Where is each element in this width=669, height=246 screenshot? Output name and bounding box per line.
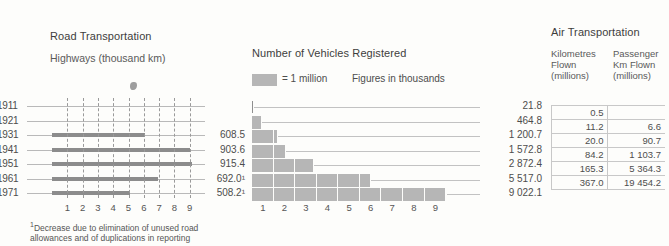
- road-row-value-label: 915.4: [195, 158, 245, 169]
- air-table-row: 11.26.6: [552, 120, 666, 134]
- road-gridline: [113, 98, 114, 198]
- air-table-body: 0.511.26.620.090.784.21 103.7165.35 364.…: [552, 106, 666, 190]
- road-row-year-label: 1951: [0, 158, 27, 169]
- vehicles-chart-row: 9 022.1: [252, 187, 544, 201]
- air-cell-passenger-km: 1 103.7: [608, 148, 665, 162]
- road-gridline: [174, 98, 175, 198]
- vehicles-unit-block: [360, 174, 371, 187]
- road-transportation-panel: Road Transportation Highways (thousand k…: [0, 0, 246, 246]
- air-cell-km-flown: 367.0: [552, 176, 608, 190]
- legend-swatch-icon: [252, 74, 277, 86]
- road-bar-chart: 191119211931608.51941903.61951915.419616…: [0, 100, 246, 200]
- road-chart-row: 1931608.5: [0, 129, 246, 143]
- vehicles-row-value-label: 5 517.0: [484, 173, 542, 184]
- air-column-header-passenger-km: Passenger Km Flown (millions): [613, 48, 669, 81]
- air-cell-km-flown: 11.2: [552, 120, 608, 134]
- road-tick-label: 4: [106, 202, 120, 213]
- vehicles-tick-label: 1: [255, 202, 271, 213]
- vehicles-chart-row: 2 872.4: [252, 158, 544, 172]
- vehicles-registered-panel: Number of Vehicles Registered = 1 millio…: [252, 0, 544, 246]
- road-footnote: 1Decrease due to elimination of unused r…: [30, 220, 230, 244]
- road-gridline: [98, 98, 99, 198]
- road-bar: [52, 162, 192, 166]
- road-gridline: [190, 98, 191, 198]
- vehicles-unit-block: [381, 188, 403, 201]
- vehicles-unit-block: [252, 174, 274, 187]
- road-bar: [52, 191, 130, 195]
- air-table-row: 20.090.7: [552, 134, 666, 148]
- road-section-title: Road Transportation: [50, 30, 152, 42]
- vehicles-row-value-label: 21.8: [484, 100, 542, 111]
- road-row-year-label: 1911: [0, 100, 27, 111]
- vehicles-leader-line: [278, 136, 480, 137]
- road-row-year-label: 1961: [0, 173, 27, 184]
- vehicles-chart-row: 1 572.8: [252, 144, 544, 158]
- vehicles-tick-label: 5: [341, 202, 357, 213]
- vehicles-unit-block: [274, 159, 296, 172]
- vehicles-axis-ticks: 123456789: [252, 202, 544, 216]
- road-bar: [52, 148, 190, 152]
- road-tick-label: 7: [152, 202, 166, 213]
- vehicles-unit-block: [295, 188, 317, 201]
- vehicles-row-value-label: 1 572.8: [484, 144, 542, 155]
- road-row-value-label: 508.2¹: [195, 187, 245, 198]
- vehicles-unit-block: [252, 159, 274, 172]
- road-gridline: [67, 98, 68, 198]
- vehicles-section-title: Number of Vehicles Registered: [252, 47, 407, 59]
- road-row-year-label: 1971: [0, 187, 27, 198]
- road-chart-row: 1951915.4: [0, 158, 246, 172]
- vehicles-leader-line: [371, 180, 480, 181]
- air-data-table: 0.511.26.620.090.784.21 103.7165.35 364.…: [551, 105, 665, 190]
- vehicles-unit-block: [274, 145, 286, 158]
- air-cell-passenger-km: 90.7: [608, 134, 665, 148]
- vehicles-unit-block: [252, 130, 274, 143]
- vehicles-unit-block: [338, 174, 360, 187]
- road-row-year-label: 1941: [0, 144, 27, 155]
- legend-unit-label: = 1 million: [282, 73, 327, 84]
- road-row-value-label: 903.6: [195, 144, 245, 155]
- vehicles-unit-block: [403, 188, 425, 201]
- road-chart-row: 1911: [0, 100, 246, 114]
- air-column-header-km-flown: Kilometres Flown (millions): [551, 48, 607, 81]
- vehicles-unit-block: [295, 174, 317, 187]
- road-tick-label: 1: [60, 202, 74, 213]
- vehicles-tick-label: 9: [427, 202, 443, 213]
- vehicles-unit-block: [252, 145, 274, 158]
- road-section-subtitle: Highways (thousand km): [50, 52, 166, 64]
- road-footnote-text: Decrease due to elimination of unused ro…: [30, 223, 198, 244]
- road-tick-label: 6: [137, 202, 151, 213]
- vehicles-row-value-label: 464.8: [484, 115, 542, 126]
- vehicles-pictogram-chart: 21.8464.81 200.71 572.82 872.45 517.09 0…: [252, 100, 544, 200]
- vehicles-tick-label: 4: [320, 202, 336, 213]
- road-gridline: [159, 98, 160, 198]
- road-chart-row: 1961692.0¹: [0, 173, 246, 187]
- vehicles-tick-label: 7: [384, 202, 400, 213]
- vehicles-chart-row: 1 200.7: [252, 129, 544, 143]
- road-axis-ticks: 123456789: [0, 202, 246, 216]
- air-table-row: 84.21 103.7: [552, 148, 666, 162]
- vehicles-row-value-label: 1 200.7: [484, 129, 542, 140]
- air-cell-passenger-km: 19 454.2: [608, 176, 665, 190]
- air-cell-km-flown: 84.2: [552, 148, 608, 162]
- road-row-year-label: 1921: [0, 115, 27, 126]
- vehicles-unit-block: [274, 188, 296, 201]
- road-row-value-label: 692.0¹: [195, 173, 245, 184]
- vehicles-leader-line: [314, 165, 480, 166]
- air-cell-km-flown: 0.5: [552, 106, 608, 120]
- road-gridline: [129, 98, 130, 198]
- vehicles-leader-line: [254, 107, 480, 108]
- vehicles-row-value-label: 9 022.1: [484, 187, 542, 198]
- road-row-year-label: 1931: [0, 129, 27, 140]
- vehicles-unit-block: [317, 174, 339, 187]
- road-tick-label: 8: [167, 202, 181, 213]
- vehicles-unit-block: [274, 174, 296, 187]
- air-cell-passenger-km: 6.6: [608, 120, 665, 134]
- vehicles-row-value-label: 2 872.4: [484, 158, 542, 169]
- road-chart-row: 1971508.2¹: [0, 187, 246, 201]
- air-table-row: 0.5: [552, 106, 666, 120]
- road-tick-label: 9: [183, 202, 197, 213]
- road-gridline: [83, 98, 84, 198]
- vehicles-leader-line: [447, 194, 480, 195]
- air-cell-passenger-km: [608, 106, 665, 120]
- vehicles-chart-row: 464.8: [252, 115, 544, 129]
